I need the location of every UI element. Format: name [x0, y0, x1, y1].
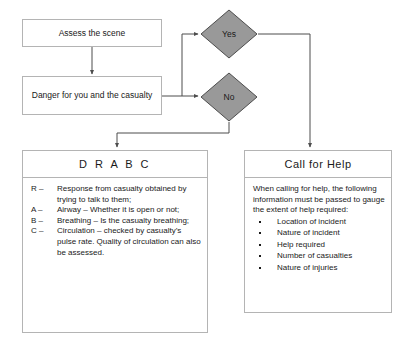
panel-drabc[interactable]: D R A B C R – Response from casualty obt… — [22, 150, 208, 333]
drabc-key: B – — [31, 216, 57, 227]
panel-drabc-header: D R A B C — [23, 151, 207, 178]
list-item: Help required — [253, 239, 385, 251]
drabc-row: B – Breathing – Is the casualty breathin… — [31, 216, 201, 227]
panel-call-for-help-header: Call for Help — [245, 151, 391, 178]
drabc-text: Response from casualty obtained by tryin… — [57, 184, 201, 205]
drabc-text: Breathing – Is the casualty breathing; — [57, 216, 201, 227]
node-assess-the-scene[interactable]: Assess the scene — [22, 19, 162, 47]
list-item: Nature of injuries — [253, 262, 385, 274]
list-item: Nature of incident — [253, 227, 385, 239]
node-assess-label: Assess the scene — [55, 28, 130, 39]
decision-no[interactable]: No — [200, 72, 258, 122]
connector-yes-to-call-for-help — [258, 34, 310, 147]
panel-call-for-help[interactable]: Call for Help When calling for help, the… — [244, 150, 392, 313]
decision-yes[interactable]: Yes — [200, 9, 258, 59]
connector-no-to-drabc — [117, 122, 229, 147]
drabc-text: Circulation – checked by casualty’s puls… — [57, 226, 201, 258]
list-item: Location of incident — [253, 216, 385, 228]
node-danger-for-you-and-casualty[interactable]: Danger for you and the casualty — [22, 76, 162, 115]
connector-danger-to-yes — [162, 34, 198, 96]
decision-yes-label: Yes — [222, 29, 236, 39]
drabc-key: A – — [31, 205, 57, 216]
drabc-key: R – — [31, 184, 57, 195]
node-danger-label: Danger for you and the casualty — [28, 90, 157, 101]
decision-no-label: No — [224, 92, 235, 102]
list-item: Number of casualties — [253, 250, 385, 262]
drabc-key: C – — [31, 226, 57, 237]
call-for-help-bullet-list: Location of incident Nature of incident … — [253, 216, 385, 274]
drabc-text: Airway – Whether it is open or not; — [57, 205, 201, 216]
drabc-row: C – Circulation – checked by casualty’s … — [31, 226, 201, 258]
call-for-help-intro: When calling for help, the following inf… — [253, 184, 385, 216]
drabc-row: A – Airway – Whether it is open or not; — [31, 205, 201, 216]
panel-drabc-body: R – Response from casualty obtained by t… — [23, 178, 207, 264]
panel-call-for-help-body: When calling for help, the following inf… — [245, 178, 391, 279]
drabc-row: R – Response from casualty obtained by t… — [31, 184, 201, 205]
flowchart-canvas: Assess the scene Danger for you and the … — [0, 0, 411, 359]
